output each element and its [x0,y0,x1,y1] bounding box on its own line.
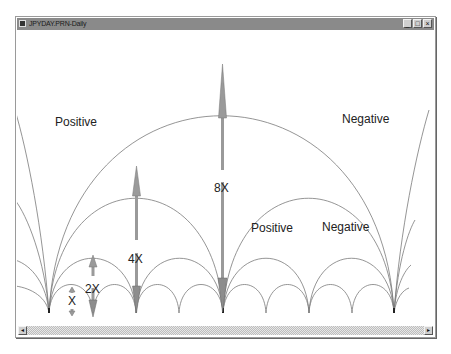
title-bar[interactable]: JPYDAY.PRN-Daily _ □ × [17,18,434,30]
minimize-button[interactable]: _ [403,19,412,28]
arc-1x-6 [266,285,309,314]
horizontal-scrollbar[interactable]: ◂ ▸ [18,326,433,335]
label-1x: X [68,295,76,307]
label-4x: 4X [128,253,143,265]
arc-4x-partial-left [17,200,49,313]
label-positive-large: Positive [55,116,97,128]
maximize-button[interactable]: □ [413,19,422,28]
arc-1x-5 [223,285,266,314]
arc-4x-partial-right [394,220,415,313]
close-button[interactable]: × [423,19,432,28]
arc-partial-right [394,110,429,313]
trough-markers [48,308,395,313]
scroll-left-arrow-icon[interactable]: ◂ [18,326,27,335]
arc-1x-8 [352,285,394,314]
arc-2x-3 [223,258,309,313]
label-8x: 8X [214,182,229,194]
arc-4x-right [223,198,394,313]
arc-2x-4 [309,258,394,313]
label-positive-medium: Positive [251,222,293,234]
arc-2x-partial-left [17,260,49,313]
label-negative-large: Negative [342,113,389,125]
arc-partial-left [17,110,49,313]
label-2x: 2X [85,283,100,295]
arc-1x-7 [309,285,352,314]
scroll-right-arrow-icon[interactable]: ▸ [424,326,433,335]
arc-1x-4 [179,285,223,314]
arc-1x-3 [136,285,179,314]
label-negative-medium: Negative [322,221,369,233]
arc-2x-2 [136,258,223,313]
app-window: JPYDAY.PRN-Daily _ □ × [15,16,436,338]
chart-canvas: Positive Negative Positive Negative 8X 4… [17,30,434,336]
app-chart-icon[interactable] [19,20,26,27]
window-title: JPYDAY.PRN-Daily [29,19,86,29]
arrow-4x [133,166,141,313]
